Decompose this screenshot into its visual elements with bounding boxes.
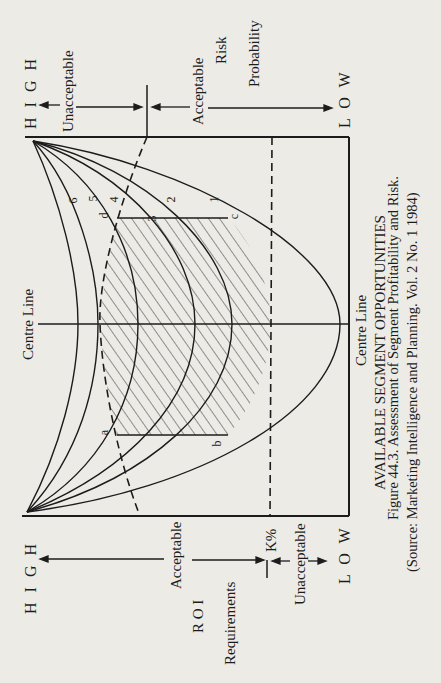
risk-acceptable-label: Acceptable [190, 58, 207, 125]
risk-title-label: Risk [213, 36, 230, 64]
roi-requirements-label: Requirements [222, 582, 239, 665]
roi-unacceptable-label: Unacceptable [292, 523, 309, 605]
roi-threshold-label: K% [263, 529, 280, 552]
figure-caption: Figure 44.3. Assessment of Segment Profi… [385, 176, 402, 520]
roi-threshold-dashed [270, 137, 272, 516]
point-label-b: b [210, 441, 225, 447]
point-label-c: c [227, 214, 242, 219]
risk-unacceptable-label: Unacceptable [60, 50, 77, 132]
curve-label-6: 6 [66, 198, 81, 204]
risk-probability-label: Probability [246, 20, 263, 87]
roi-high-label: H I G H [22, 541, 40, 614]
roi-acceptable-label: Acceptable [168, 522, 185, 589]
curve-label-1: 1 [207, 197, 222, 203]
point-label-d: d [97, 213, 112, 219]
curve-label-2: 2 [164, 197, 179, 203]
risk-high-label: H I G H [22, 56, 40, 129]
curve-label-5: 5 [86, 196, 101, 202]
risk-low-label: L O W [336, 69, 354, 128]
centre-line-label-bottom: Centre Line [353, 295, 370, 366]
centre-line-label-top: Centre Line [20, 289, 37, 360]
figure-source: (Source: Marketing Intelligence and Plan… [404, 192, 421, 572]
point-label-a: a [97, 430, 112, 435]
roi-low-label: L O W [336, 525, 354, 584]
curve-label-3: 3 [145, 216, 160, 222]
curve-label-4: 4 [107, 197, 122, 203]
roi-title-label: R O I [190, 600, 207, 633]
risk-axis-arrows [40, 102, 332, 111]
hatched-opportunity-area [101, 218, 271, 435]
